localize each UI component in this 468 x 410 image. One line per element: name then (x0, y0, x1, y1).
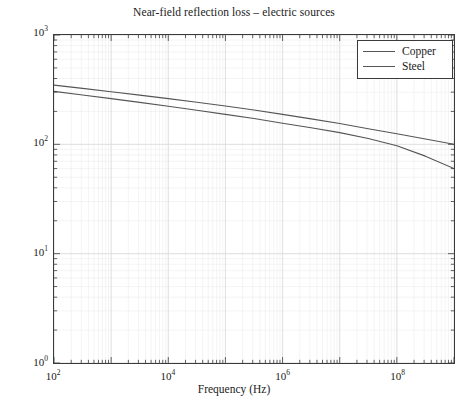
x-tick-label-106: 106 (263, 370, 303, 382)
chart-title: Near-field reflection loss – electric so… (0, 6, 468, 18)
y-tick-label-103: 103 (8, 26, 48, 38)
y-tick-label-102: 102 (8, 136, 48, 148)
legend-swatch-copper (363, 51, 395, 52)
y-tick-label-101: 101 (8, 246, 48, 258)
legend-label: Steel (402, 61, 425, 73)
plot-area (53, 34, 455, 364)
x-axis-label: Frequency (Hz) (0, 383, 468, 395)
legend-item-copper: Copper (358, 44, 452, 59)
x-tick-label-102: 102 (33, 370, 73, 382)
legend-item-steel: Steel (358, 59, 452, 74)
x-tick-label-108: 108 (378, 370, 418, 382)
chart-legend: CopperSteel (357, 40, 453, 79)
chart-figure: Near-field reflection loss – electric so… (0, 0, 468, 410)
x-tick-label-104: 104 (148, 370, 188, 382)
axis-tick-marks (54, 35, 454, 363)
legend-label: Copper (402, 46, 436, 58)
y-tick-label-100: 100 (8, 356, 48, 368)
legend-swatch-steel (363, 66, 395, 67)
